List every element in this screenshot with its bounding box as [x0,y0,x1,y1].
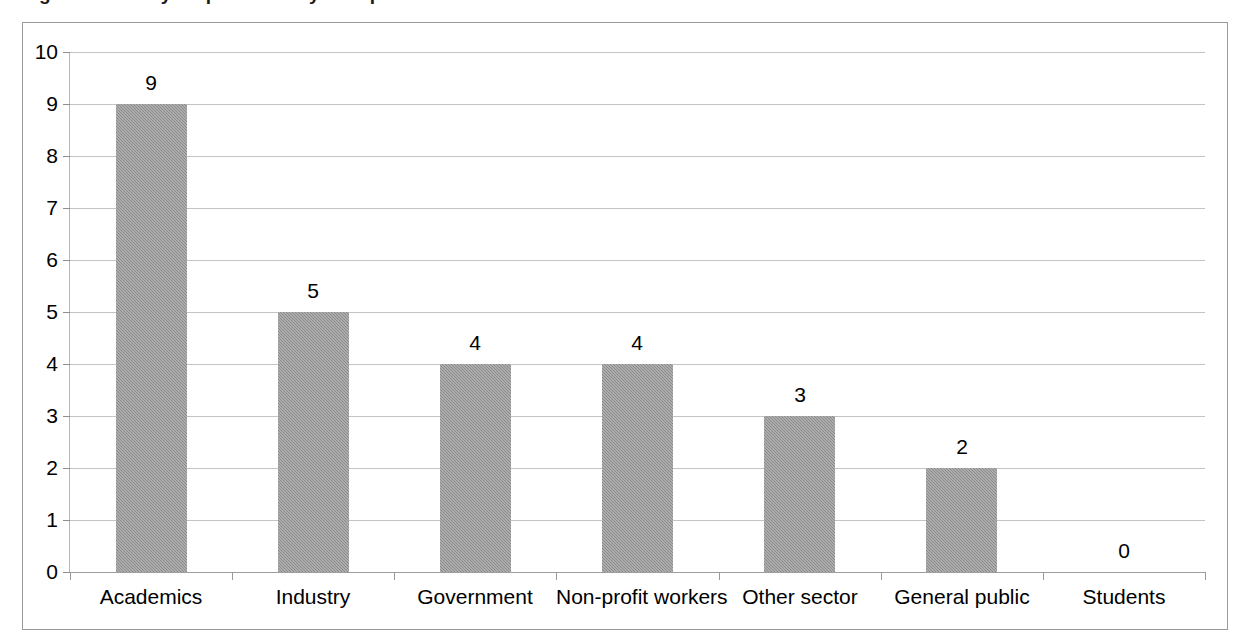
value-label-general-public: 2 [881,436,1043,457]
bar-general-public[interactable] [926,468,997,572]
y-tick-0 [63,572,70,573]
y-tick-label-3: 3 [18,405,58,426]
y-tick-2 [63,468,70,469]
y-tick-label-2: 2 [18,457,58,478]
value-label-government: 4 [394,332,556,353]
x-tick-7 [1205,572,1206,580]
category-label-general-public: General public [881,586,1043,607]
y-tick-9 [63,104,70,105]
y-tick-5 [63,312,70,313]
gridline-10 [70,52,1205,53]
y-tick-label-1: 1 [18,509,58,530]
bar-non-profit-workers[interactable] [602,364,673,572]
chart-title: Figure 5. Survey respondents by occupati… [0,0,1250,9]
y-tick-label-6: 6 [18,249,58,270]
y-tick-label-0: 0 [18,561,58,582]
x-tick-2 [394,572,395,580]
category-label-students: Students [1043,586,1205,607]
y-tick-label-10: 10 [18,41,58,62]
value-label-other-sector: 3 [719,384,881,405]
category-label-other-sector: Other sector [719,586,881,607]
y-tick-1 [63,520,70,521]
category-label-non-profit-workers: Non-profit workers [556,586,718,607]
x-tick-1 [232,572,233,580]
y-tick-3 [63,416,70,417]
y-tick-label-5: 5 [18,301,58,322]
y-tick-label-4: 4 [18,353,58,374]
y-tick-6 [63,260,70,261]
gridline-9 [70,104,1205,105]
gridline-0 [70,572,1205,573]
gridline-7 [70,208,1205,209]
value-label-academics: 9 [70,72,232,93]
y-tick-4 [63,364,70,365]
y-tick-label-8: 8 [18,145,58,166]
chart-screenshot: Figure 5. Survey respondents by occupati… [0,0,1250,644]
y-tick-7 [63,208,70,209]
x-tick-6 [1043,572,1044,580]
x-tick-0 [70,572,71,580]
category-label-academics: Academics [70,586,232,607]
y-tick-8 [63,156,70,157]
y-tick-label-7: 7 [18,197,58,218]
x-tick-5 [881,572,882,580]
value-label-non-profit-workers: 4 [556,332,718,353]
x-tick-4 [719,572,720,580]
bar-industry[interactable] [278,312,349,572]
y-tick-label-9: 9 [18,93,58,114]
bar-government[interactable] [440,364,511,572]
gridline-5 [70,312,1205,313]
gridline-6 [70,260,1205,261]
category-label-government: Government [394,586,556,607]
value-label-industry: 5 [232,280,394,301]
bar-academics[interactable] [116,104,187,572]
value-label-students: 0 [1043,540,1205,561]
bar-other-sector[interactable] [764,416,835,572]
category-label-industry: Industry [232,586,394,607]
x-tick-3 [556,572,557,580]
gridline-8 [70,156,1205,157]
y-tick-10 [63,52,70,53]
